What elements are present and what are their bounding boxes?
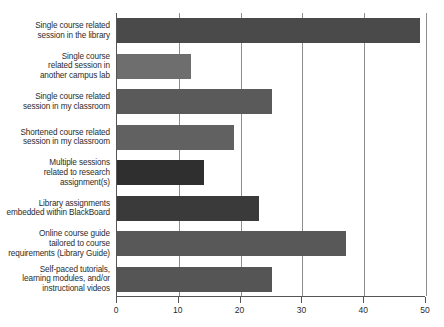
bar-row <box>117 267 425 292</box>
plot-area <box>116 13 425 297</box>
category-label-line: session in the library <box>0 31 110 41</box>
category-label-line: session in my classroom <box>0 137 110 147</box>
category-label-line: tailored to course <box>0 239 110 249</box>
x-tick-label-0: 0 <box>114 305 119 315</box>
category-label-line: assignment(s) <box>0 178 110 188</box>
x-tick-50 <box>425 297 426 303</box>
bar-row <box>117 89 425 114</box>
category-label-line: learning modules, and/or <box>0 274 110 284</box>
x-tick-label-30: 30 <box>297 305 306 315</box>
category-label-line: Shortened course related <box>0 128 110 138</box>
bar <box>117 54 191 79</box>
x-tick-0 <box>116 297 117 303</box>
category-label: Self-paced tutorials,learning modules, a… <box>0 265 110 294</box>
x-tick-label-20: 20 <box>235 305 244 315</box>
bar-rows <box>117 13 425 296</box>
category-label: Online course guidetailored to coursereq… <box>0 229 110 258</box>
category-label-line: Online course guide <box>0 229 110 239</box>
x-tick-30 <box>301 297 302 303</box>
bar-row <box>117 231 425 256</box>
category-label: Multiple sessionsrelated to researchassi… <box>0 158 110 187</box>
bar <box>117 125 234 150</box>
category-label-line: requirements (Library Guide) <box>0 249 110 259</box>
x-tick-label-50: 50 <box>420 305 429 315</box>
bar-row <box>117 196 425 221</box>
category-label: Library assignmentsembedded within Black… <box>0 199 110 218</box>
bar <box>117 160 204 185</box>
bar-row <box>117 18 425 43</box>
x-tick-20 <box>240 297 241 303</box>
category-label-line: related to research <box>0 168 110 178</box>
category-label-line: related session in <box>0 61 110 71</box>
category-label-line: Multiple sessions <box>0 158 110 168</box>
category-label: Single course relatedsession in my class… <box>0 92 110 111</box>
bar <box>117 196 259 221</box>
x-tick-40 <box>363 297 364 303</box>
x-tick-label-10: 10 <box>173 305 182 315</box>
category-label-line: Single course related <box>0 92 110 102</box>
bar-row <box>117 54 425 79</box>
x-tick-label-40: 40 <box>358 305 367 315</box>
category-label-line: Single course <box>0 52 110 62</box>
category-label-line: Library assignments <box>0 199 110 209</box>
bar <box>117 18 420 43</box>
category-axis-labels: Single course relatedsession in the libr… <box>0 13 116 297</box>
bar <box>117 231 346 256</box>
bar-chart: Single course relatedsession in the libr… <box>0 0 444 327</box>
x-tick-10 <box>178 297 179 303</box>
category-label-line: session in my classroom <box>0 102 110 112</box>
category-label: Single course relatedsession in the libr… <box>0 21 110 40</box>
category-label-line: embedded within BlackBoard <box>0 208 110 218</box>
category-label-line: instructional videos <box>0 284 110 294</box>
bar <box>117 89 272 114</box>
bar-row <box>117 160 425 185</box>
bar-row <box>117 125 425 150</box>
category-label-line: Single course related <box>0 21 110 31</box>
category-label-line: another campus lab <box>0 71 110 81</box>
category-label: Single courserelated session inanother c… <box>0 52 110 81</box>
category-label-line: Self-paced tutorials, <box>0 265 110 275</box>
category-label: Shortened course relatedsession in my cl… <box>0 128 110 147</box>
gridline-50 <box>426 13 427 296</box>
bar <box>117 267 272 292</box>
